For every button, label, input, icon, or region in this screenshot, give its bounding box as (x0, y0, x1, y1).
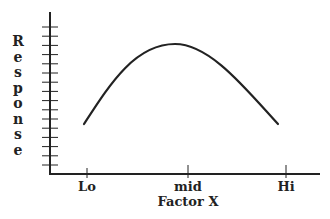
y-title-letter: s (11, 126, 25, 142)
y-title-letter: n (11, 111, 25, 127)
y-title-letter: s (11, 64, 25, 80)
y-title-letter: o (11, 95, 25, 111)
y-title-letter: e (11, 49, 25, 65)
response-curve (84, 44, 278, 124)
x-tick-label-lo: Lo (78, 179, 96, 194)
x-tick-label-hi: Hi (277, 179, 294, 194)
y-title-letter: R (11, 33, 25, 49)
y-title-letter: p (11, 80, 25, 96)
y-axis (42, 12, 58, 174)
y-title-letter: e (11, 142, 25, 158)
x-axis-title: Factor X (158, 194, 219, 209)
x-axis (49, 165, 320, 178)
x-tick-label-mid: mid (174, 179, 202, 194)
